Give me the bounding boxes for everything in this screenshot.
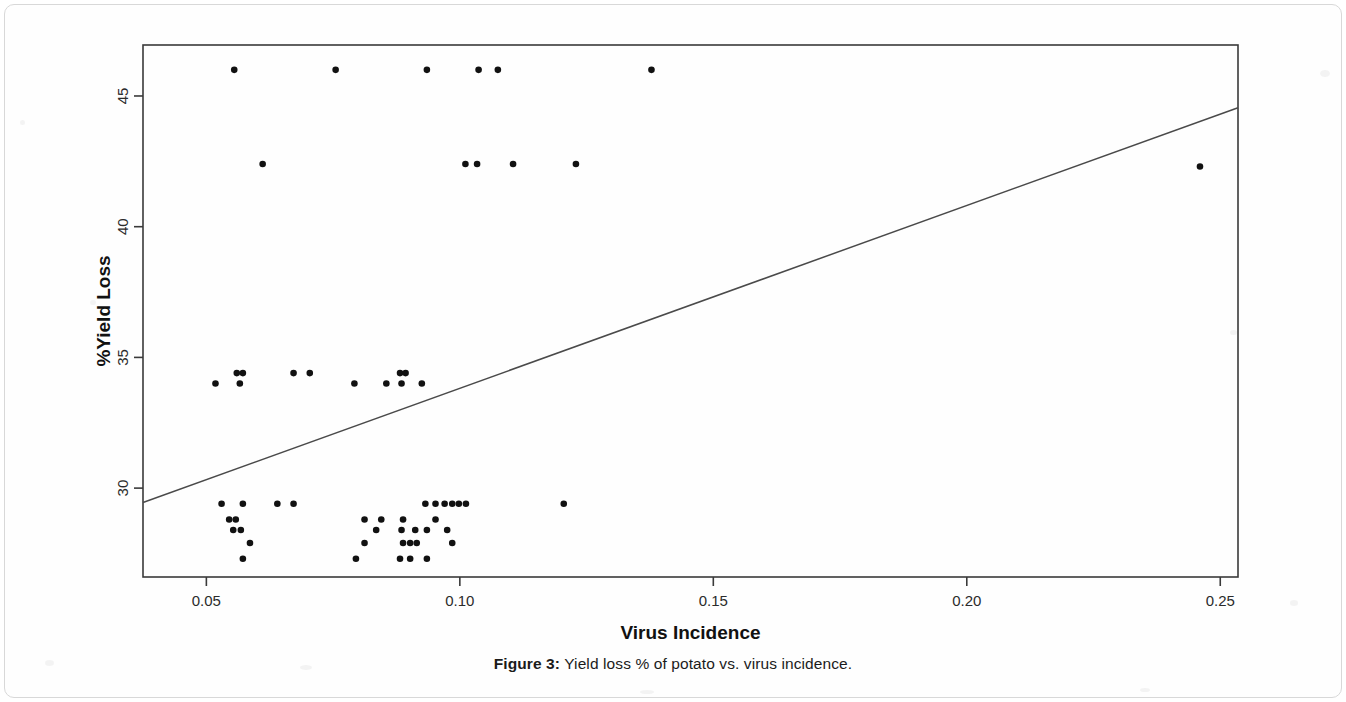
scan-speckle xyxy=(300,665,312,670)
data-point xyxy=(238,527,245,534)
data-point xyxy=(413,540,420,547)
data-point xyxy=(400,540,407,547)
data-point xyxy=(306,370,313,377)
data-point xyxy=(332,67,339,74)
data-point xyxy=(232,516,239,523)
data-point xyxy=(402,370,409,377)
x-tick-label: 0.10 xyxy=(445,592,474,609)
data-point xyxy=(218,501,225,508)
x-axis-title: Virus Incidence xyxy=(620,622,760,643)
data-point xyxy=(573,161,580,168)
data-point xyxy=(412,527,419,534)
data-point xyxy=(237,380,244,387)
data-point xyxy=(378,516,385,523)
x-tick-label: 0.15 xyxy=(699,592,728,609)
trend-line xyxy=(143,108,1238,503)
data-point xyxy=(475,67,482,74)
data-point xyxy=(383,380,390,387)
y-tick-label: 35 xyxy=(115,349,132,366)
data-point xyxy=(353,555,360,562)
x-tick-label: 0.05 xyxy=(192,592,221,609)
data-point xyxy=(424,67,431,74)
data-point xyxy=(290,370,297,377)
data-point xyxy=(274,501,281,508)
data-point xyxy=(397,555,404,562)
scan-speckle xyxy=(90,300,96,305)
data-point xyxy=(233,370,240,377)
scan-speckle xyxy=(20,120,25,125)
scan-speckle xyxy=(1230,330,1237,335)
data-point xyxy=(398,527,405,534)
data-point xyxy=(432,516,439,523)
data-point xyxy=(424,555,431,562)
data-point xyxy=(400,516,407,523)
data-point xyxy=(449,501,456,508)
data-point xyxy=(462,161,469,168)
figure-caption: Figure 3: Yield loss % of potato vs. vir… xyxy=(0,655,1346,673)
data-point xyxy=(407,555,414,562)
x-tick-label: 0.25 xyxy=(1206,592,1235,609)
scan-speckle xyxy=(1140,688,1150,692)
data-point xyxy=(495,67,502,74)
data-point xyxy=(247,540,254,547)
data-point xyxy=(240,501,247,508)
data-point xyxy=(432,501,439,508)
data-point xyxy=(1197,163,1204,170)
scan-speckle xyxy=(1290,600,1298,606)
figure-caption-label: Figure 3: xyxy=(494,655,560,672)
data-point xyxy=(449,540,456,547)
data-point xyxy=(407,540,414,547)
x-tick-label: 0.20 xyxy=(952,592,981,609)
data-point xyxy=(226,516,233,523)
data-point xyxy=(398,380,405,387)
data-point xyxy=(441,501,448,508)
figure-caption-text: Yield loss % of potato vs. virus inciden… xyxy=(560,655,852,672)
data-point xyxy=(419,380,426,387)
data-point xyxy=(474,161,481,168)
data-point xyxy=(259,161,266,168)
y-axis-title: %Yield Loss xyxy=(93,255,114,366)
data-point xyxy=(463,501,470,508)
data-point xyxy=(510,161,517,168)
data-point xyxy=(648,67,655,74)
data-point xyxy=(361,540,368,547)
plot-frame xyxy=(143,45,1238,577)
figure-3: 0.050.100.150.200.2530354045%Yield LossV… xyxy=(0,0,1346,702)
data-point xyxy=(422,501,429,508)
y-tick-label: 40 xyxy=(115,218,132,235)
data-point xyxy=(212,380,219,387)
data-point xyxy=(351,380,358,387)
data-point xyxy=(240,555,247,562)
data-point xyxy=(373,527,380,534)
data-point xyxy=(290,501,297,508)
scatter-plot: 0.050.100.150.200.2530354045%Yield LossV… xyxy=(0,0,1346,702)
data-point xyxy=(456,501,463,508)
y-tick-label: 30 xyxy=(115,480,132,497)
data-point xyxy=(230,527,237,534)
data-point xyxy=(240,370,247,377)
scan-speckle xyxy=(45,660,54,666)
data-point xyxy=(424,527,431,534)
scan-speckle xyxy=(640,690,654,694)
data-point xyxy=(444,527,451,534)
data-point xyxy=(361,516,368,523)
y-tick-label: 45 xyxy=(115,88,132,105)
scan-speckle xyxy=(1320,70,1330,77)
data-point xyxy=(231,67,238,74)
data-point xyxy=(560,501,567,508)
